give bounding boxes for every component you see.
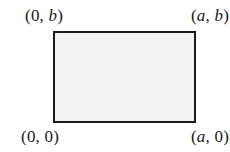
coordinate-x-value: a — [197, 127, 206, 146]
corner-label-bottom-right: (a, 0) — [191, 127, 229, 147]
coordinate-y-value: b — [214, 6, 223, 25]
paren-close: ) — [223, 6, 229, 25]
corner-label-top-right: (a, b) — [191, 6, 229, 26]
coordinate-x-value: a — [197, 6, 206, 25]
corner-label-bottom-left: (0, 0) — [21, 127, 59, 147]
coordinate-x-value: 0 — [27, 127, 36, 146]
coordinate-x-value: 0 — [31, 6, 40, 25]
paren-close: ) — [53, 127, 59, 146]
paren-close: ) — [223, 127, 229, 146]
coordinate-y-value: 0 — [214, 127, 223, 146]
coordinate-y-value: 0 — [44, 127, 53, 146]
paren-close: ) — [57, 6, 63, 25]
coordinate-y-value: b — [48, 6, 57, 25]
rectangle-shape — [53, 31, 196, 123]
geometry-figure: (0, b) (a, b) (0, 0) (a, 0) — [0, 0, 230, 152]
corner-label-top-left: (0, b) — [25, 6, 63, 26]
